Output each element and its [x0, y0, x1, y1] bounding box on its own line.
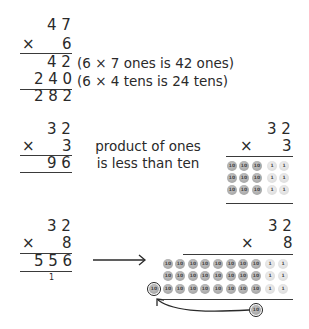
regrouped-ten-disc: 10 — [149, 284, 159, 294]
one-disc: 1 — [265, 259, 275, 269]
one-disc: 1 — [278, 271, 288, 281]
ten-disc: 10 — [200, 271, 210, 281]
regroup-arrow-icon — [157, 299, 249, 311]
right-arrow-icon — [93, 255, 145, 265]
ten-disc: 10 — [251, 259, 261, 269]
new-ten-disc: 10 — [251, 305, 261, 315]
one-disc: 1 — [278, 259, 288, 269]
one-disc: 1 — [265, 284, 275, 294]
ten-disc: 10 — [226, 284, 236, 294]
ten-disc: 10 — [175, 271, 185, 281]
ten-disc: 10 — [238, 271, 248, 281]
one-disc: 1 — [265, 271, 275, 281]
ten-disc: 10 — [175, 284, 185, 294]
ten-disc: 10 — [175, 259, 185, 269]
ten-disc: 10 — [251, 284, 261, 294]
ten-disc: 10 — [238, 284, 248, 294]
ten-disc: 10 — [213, 271, 223, 281]
arrows — [0, 0, 309, 329]
ten-disc: 10 — [251, 271, 261, 281]
ten-disc: 10 — [188, 271, 198, 281]
one-disc: 1 — [278, 284, 288, 294]
model-times-sign: × — [241, 236, 254, 251]
ten-disc: 10 — [200, 284, 210, 294]
ten-disc: 10 — [188, 259, 198, 269]
ten-disc: 10 — [238, 259, 248, 269]
ten-disc: 10 — [213, 259, 223, 269]
rule-line — [163, 299, 293, 300]
ten-disc: 10 — [200, 259, 210, 269]
model-multiplicand: 3 2 — [268, 219, 292, 234]
ten-disc: 10 — [226, 259, 236, 269]
ten-disc: 10 — [213, 284, 223, 294]
ten-disc: 10 — [163, 271, 173, 281]
rule-line — [183, 254, 293, 255]
ten-disc: 10 — [188, 284, 198, 294]
ten-disc: 10 — [226, 271, 236, 281]
ten-disc: 10 — [163, 284, 173, 294]
model-multiplier: 8 — [283, 236, 293, 251]
ten-disc: 10 — [163, 259, 173, 269]
